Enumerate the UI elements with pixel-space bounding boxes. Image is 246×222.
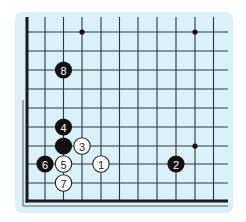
star-point-icon: [79, 29, 84, 34]
black-stone-icon: [55, 137, 72, 154]
star-point-icon: [192, 143, 197, 148]
stone-move-number: 3: [79, 141, 85, 153]
go-board: 12345678: [0, 0, 246, 222]
stone-move-number: 7: [60, 178, 66, 190]
black-stone: 4: [55, 118, 72, 135]
white-stone: 7: [55, 175, 71, 191]
black-stone: 2: [167, 155, 184, 172]
stone-move-number: 5: [60, 159, 66, 171]
black-stone: 6: [36, 155, 53, 172]
white-stone: 1: [93, 156, 109, 172]
black-stone: [55, 137, 72, 154]
stone-move-number: 8: [60, 65, 66, 77]
stone-move-number: 4: [60, 122, 66, 134]
stone-move-number: 6: [42, 159, 48, 171]
white-stone: 5: [55, 156, 71, 172]
stone-move-number: 2: [173, 159, 179, 171]
black-stone: 8: [55, 61, 72, 78]
stone-move-number: 1: [98, 159, 104, 171]
white-stone: 3: [74, 138, 90, 154]
star-point-icon: [192, 29, 197, 34]
